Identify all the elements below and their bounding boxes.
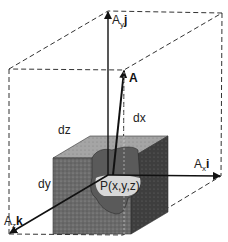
ax-label: Axi <box>194 157 209 173</box>
dy-label: dy <box>38 177 51 191</box>
point-p-label: P(x,y,z) <box>100 179 140 193</box>
az-label: Azk <box>4 214 23 230</box>
vector-diagram: Ayj A dx dz dy Axi Azk P(x,y,z) <box>0 0 228 242</box>
dz-label: dz <box>58 123 71 137</box>
ax-arrow <box>108 175 220 176</box>
ay-label: Ayj <box>112 13 127 29</box>
vector-a-label: A <box>129 71 138 85</box>
dx-label: dx <box>133 111 146 125</box>
